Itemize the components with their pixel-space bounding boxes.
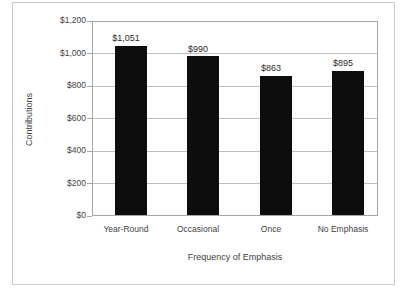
y-axis-title: Contributions xyxy=(22,70,33,84)
bar-year-round[interactable] xyxy=(115,46,147,215)
bar-value-label-once: $863 xyxy=(239,63,303,73)
plot-area xyxy=(92,21,378,216)
bar-value-label-occasional: $990 xyxy=(166,44,230,54)
y-tick-label-400: $400 xyxy=(67,146,86,155)
bar-value-label-year-round: $1,051 xyxy=(94,33,158,43)
x-axis-title: Frequency of Emphasis xyxy=(92,252,378,263)
y-tick-label-1200: $1,200 xyxy=(60,16,86,25)
bar-no-emphasis[interactable] xyxy=(332,71,364,215)
x-category-label-no-emphasis: No Emphasis xyxy=(301,224,385,234)
y-tick-mark-0 xyxy=(87,216,92,217)
y-axis-title-text: Contributions xyxy=(24,132,35,146)
bar-chart: Contributions $1,200 $1,000 $800 $600 $4… xyxy=(0,0,410,295)
y-tick-label-800: $800 xyxy=(67,81,86,90)
y-tick-label-200: $200 xyxy=(67,179,86,188)
y-tick-label-1000: $1,000 xyxy=(60,49,86,58)
x-category-label-occasional: Occasional xyxy=(156,224,240,234)
bar-value-label-no-emphasis: $895 xyxy=(311,58,375,68)
bar-once[interactable] xyxy=(260,76,292,215)
bar-occasional[interactable] xyxy=(187,56,219,215)
y-tick-label-0: $0 xyxy=(77,211,86,220)
y-tick-label-600: $600 xyxy=(67,114,86,123)
